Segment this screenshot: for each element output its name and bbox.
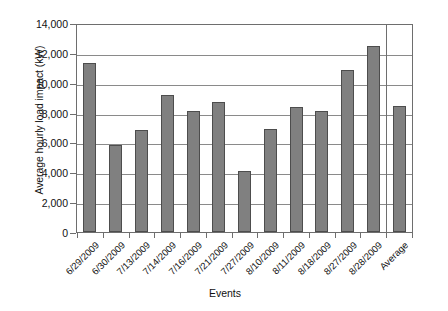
x-axis-labels: 6/29/20096/30/20097/13/20097/14/20097/16… <box>0 0 448 311</box>
x-axis-title: Events <box>180 287 270 299</box>
bar-chart: Average hourly load impact (kW) 02,0004,… <box>0 0 448 311</box>
